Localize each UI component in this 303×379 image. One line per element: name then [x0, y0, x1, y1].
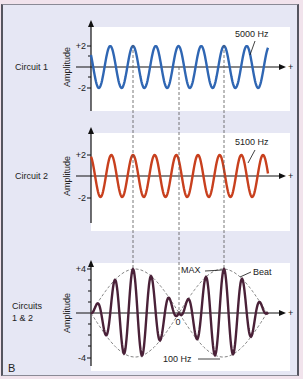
tick-minus2: -2	[78, 193, 86, 203]
tick-minus2: -2	[78, 83, 86, 93]
x-axis-plus: +	[288, 171, 293, 181]
max-label: MAX	[181, 265, 201, 275]
y-axis-arrow-icon	[88, 127, 94, 134]
beat-label: Beat	[253, 267, 272, 277]
tick-plus2: +2	[76, 150, 86, 160]
beat-freq-label: 100 Hz	[163, 354, 192, 364]
y-axis-label: Amplitude	[62, 47, 72, 87]
y-axis-arrow-icon	[88, 20, 94, 27]
x-axis-plus: +	[288, 62, 293, 72]
plot-area-circuit-1	[91, 27, 290, 111]
row-label-circuit-2: Circuit 2	[15, 171, 48, 181]
tick-plus2: +2	[76, 41, 86, 51]
tick-plus4: +4	[76, 264, 86, 274]
y-axis-label: Amplitude	[62, 156, 72, 196]
freq-label-5000: 5000 Hz	[235, 29, 269, 39]
row-label-1-and-2: 1 & 2	[12, 313, 33, 323]
y-axis-label: Amplitude	[62, 293, 72, 333]
zero-label: 0	[175, 317, 180, 327]
x-axis-plus: +	[288, 308, 293, 318]
panel-label: B	[8, 362, 15, 374]
row-label-circuit-1: Circuit 1	[15, 62, 48, 72]
beat-diagram: + +2 -2 Amplitude Circuit 1 5000 Hz + +2…	[0, 0, 303, 379]
tick-minus4: -4	[78, 353, 86, 363]
row-label-circuits: Circuits	[12, 301, 43, 311]
freq-label-5100: 5100 Hz	[235, 137, 269, 147]
